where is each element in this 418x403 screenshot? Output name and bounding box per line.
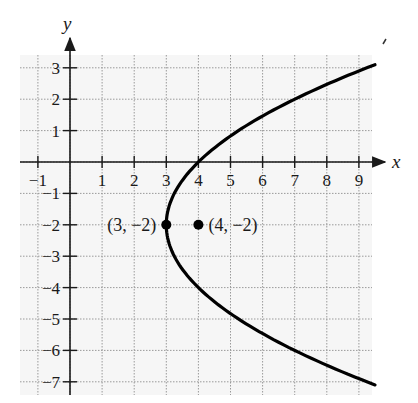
x-tick-label: 5 (226, 171, 235, 190)
x-tick-label: 2 (130, 171, 139, 190)
y-tick-label: −3 (42, 247, 60, 266)
y-axis-label: y (61, 13, 72, 34)
y-tick-label: 2 (52, 90, 61, 109)
y-tick-label: −1 (42, 184, 60, 203)
x-tick-label: 4 (194, 171, 203, 190)
focus-label: (4, −2) (208, 215, 257, 236)
vertex-label: (3, −2) (107, 215, 156, 236)
parabola-chart: −1123456789321−1−2−3−4−5−6−7 (3, −2)(4, … (0, 0, 418, 403)
x-tick-label: 6 (258, 171, 267, 190)
x-axis-label: x (391, 151, 401, 172)
y-tick-label: 3 (52, 59, 61, 78)
x-tick-label: 8 (323, 171, 332, 190)
y-tick-label: −7 (42, 373, 61, 392)
y-tick-label: −4 (42, 279, 61, 298)
stray-mark (383, 39, 386, 44)
y-tick-label: 1 (52, 122, 61, 141)
y-tick-label: −5 (42, 310, 60, 329)
x-tick-label: 9 (355, 171, 364, 190)
vertex-point (161, 220, 171, 230)
focus-point (193, 220, 203, 230)
x-tick-label: 1 (98, 171, 107, 190)
y-tick-label: −2 (42, 216, 60, 235)
x-tick-label: 3 (162, 171, 171, 190)
x-tick-label: 7 (290, 171, 299, 190)
y-tick-label: −6 (42, 341, 60, 360)
